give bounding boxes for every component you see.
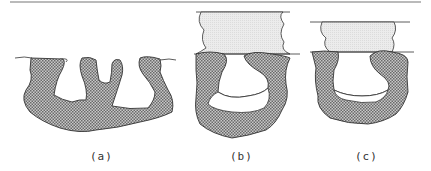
label-c: (c) [355,150,378,163]
panel-a [15,57,176,132]
panel-c [310,22,414,124]
label-b: (b) [230,150,253,163]
panel-b [194,12,300,138]
diagram [0,0,431,171]
label-a: (a) [90,150,113,163]
